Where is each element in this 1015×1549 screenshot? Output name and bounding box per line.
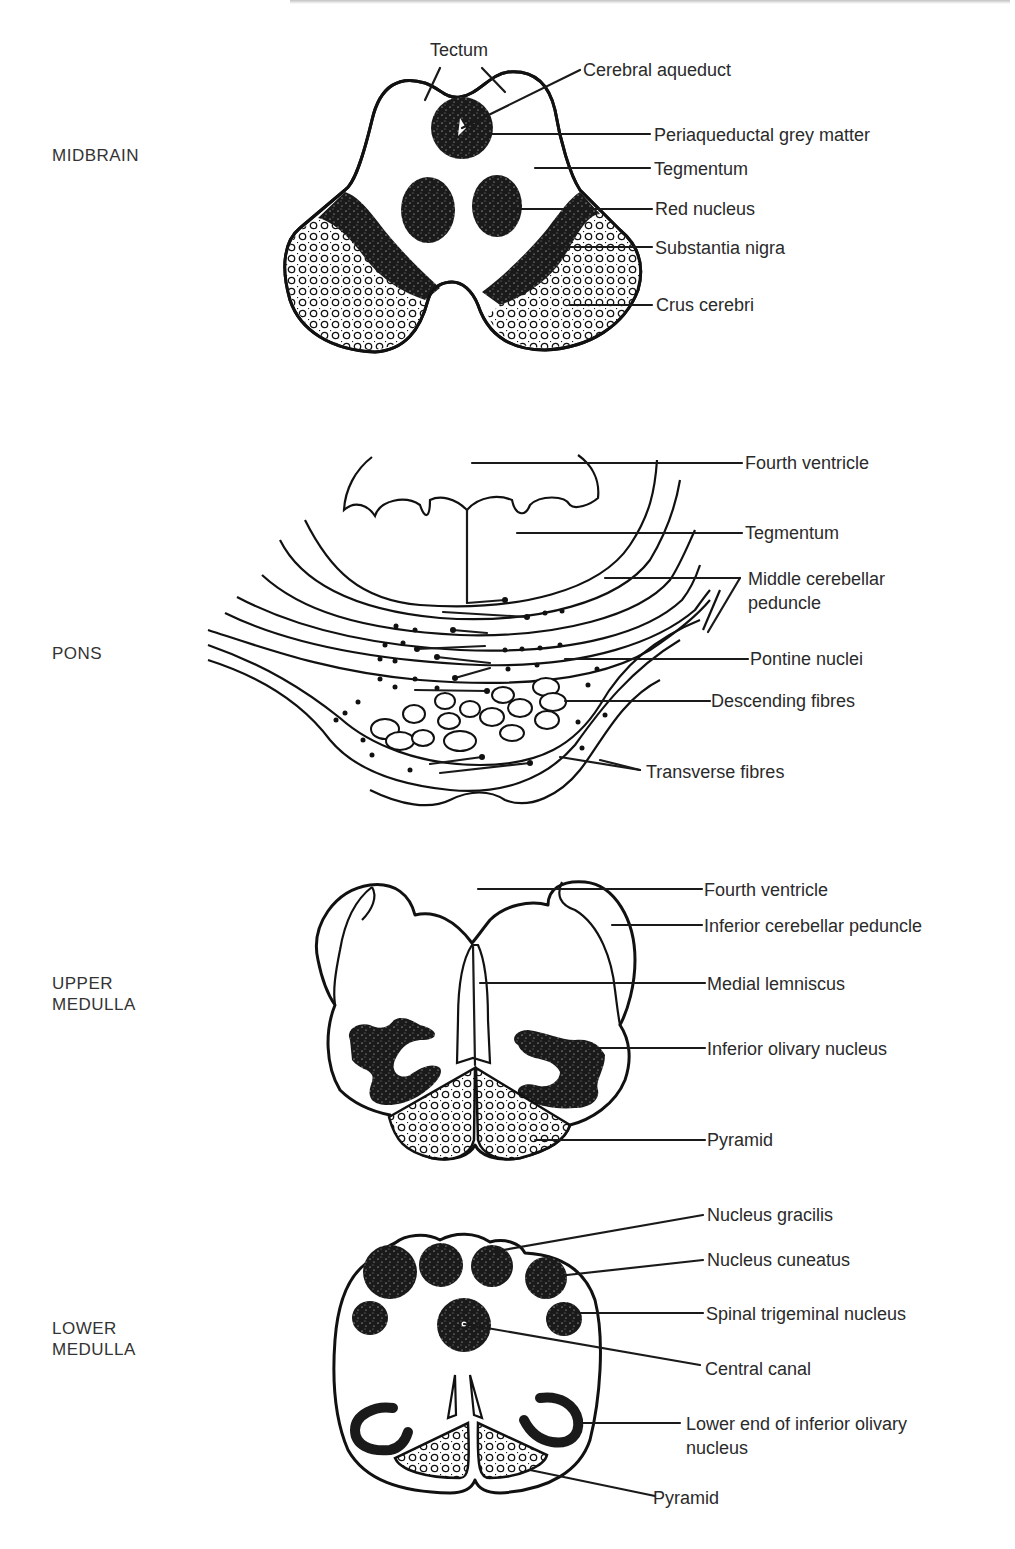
label-pyramid: Pyramid	[653, 1488, 719, 1508]
label-inferior-olivary-nucleus: Inferior olivary nucleus	[707, 1039, 887, 1059]
label-central-canal: Central canal	[705, 1359, 811, 1379]
label-lower-end-olivary: Lower end of inferior olivary	[686, 1414, 907, 1434]
label-descending-fibres: Descending fibres	[711, 691, 855, 711]
label-tegmentum: Tegmentum	[745, 523, 839, 543]
label-crus-cerebri: Crus cerebri	[656, 295, 754, 315]
label-nucleus-gracilis: Nucleus gracilis	[707, 1205, 833, 1225]
descending-fibre-bundles	[371, 678, 566, 751]
upper-medulla-diagram: Fourth ventricle Inferior cerebellar ped…	[317, 880, 923, 1159]
midbrain-diagram: Tectum Cerebral aqueduct Periaqueductal …	[285, 40, 870, 352]
label-spinal-trigeminal-nucleus: Spinal trigeminal nucleus	[706, 1304, 906, 1324]
pons-diagram: Fourth ventricle Tegmentum Middle cerebe…	[208, 453, 885, 805]
label-tectum: Tectum	[430, 40, 488, 60]
label-nucleus-cuneatus: Nucleus cuneatus	[707, 1250, 850, 1270]
label-middle-cerebellar-peduncle: Middle cerebellar	[748, 569, 885, 589]
label-cerebral-aqueduct: Cerebral aqueduct	[583, 60, 731, 80]
label-pontine-nuclei: Pontine nuclei	[750, 649, 863, 669]
label-transverse-fibres: Transverse fibres	[646, 762, 784, 782]
label-fourth-ventricle: Fourth ventricle	[745, 453, 869, 473]
label-medial-lemniscus: Medial lemniscus	[707, 974, 845, 994]
label-periaqueductal-grey: Periaqueductal grey matter	[654, 125, 870, 145]
brainstem-sections-diagram: Tectum Cerebral aqueduct Periaqueductal …	[0, 0, 1015, 1549]
label-tegmentum: Tegmentum	[654, 159, 748, 179]
label-inferior-cerebellar-peduncle: Inferior cerebellar peduncle	[704, 916, 922, 936]
label-pyramid: Pyramid	[707, 1130, 773, 1150]
label-fourth-ventricle: Fourth ventricle	[704, 880, 828, 900]
label-substantia-nigra: Substantia nigra	[655, 238, 786, 258]
label-middle-cerebellar-peduncle-line2: peduncle	[748, 593, 821, 613]
label-lower-end-olivary-line2: nucleus	[686, 1438, 748, 1458]
lower-medulla-diagram: Nucleus gracilis Nucleus cuneatus Spinal…	[334, 1205, 907, 1508]
label-red-nucleus: Red nucleus	[655, 199, 755, 219]
